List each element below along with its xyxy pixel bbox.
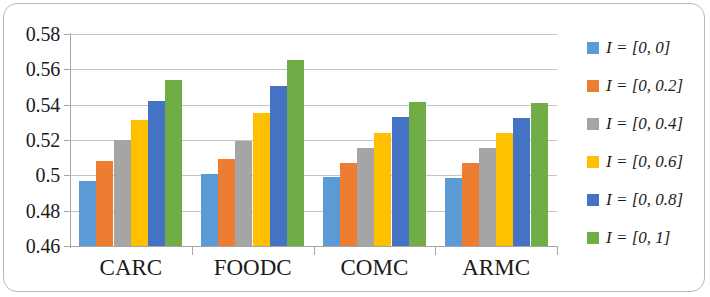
category-separator [314, 246, 315, 255]
category-separator [192, 246, 193, 255]
bar [513, 118, 530, 246]
bar [287, 60, 304, 246]
legend-label: I = [0, 0.6] [606, 152, 683, 172]
category-label-armc: ARMC [435, 255, 557, 280]
bar [323, 177, 340, 246]
bar [270, 86, 287, 246]
category-label-foodc: FOODC [192, 255, 314, 280]
bar [201, 174, 218, 246]
bar [131, 120, 148, 246]
legend-label: I = [0, 0.8] [606, 190, 683, 210]
legend-label: I = [0, 0.2] [606, 76, 683, 96]
bar [165, 80, 182, 246]
category-separator [557, 246, 558, 255]
legend-label: I = [0, 0] [606, 38, 670, 58]
y-axis-tick-label: 0.58 [8, 24, 60, 44]
legend-label: I = [0, 1] [606, 228, 670, 248]
plot-area [70, 34, 557, 246]
bar [531, 103, 548, 246]
bar [340, 163, 357, 246]
category-separator [435, 246, 436, 255]
legend-color-swatch [587, 118, 599, 130]
legend-color-swatch [587, 80, 599, 92]
bar [357, 148, 374, 246]
y-axis-tick-label: 0.46 [8, 236, 60, 256]
legend-color-swatch [587, 232, 599, 244]
y-axis-tick-label: 0.48 [8, 201, 60, 221]
legend-color-swatch [587, 156, 599, 168]
bar [479, 148, 496, 246]
legend-color-swatch [587, 42, 599, 54]
bar-group-comc [314, 34, 436, 246]
y-axis-tick-label: 0.56 [8, 59, 60, 79]
bar [235, 141, 252, 246]
bar [148, 101, 165, 246]
bar [374, 133, 391, 246]
bar [79, 181, 96, 246]
bar [253, 113, 270, 246]
bar [496, 133, 513, 246]
legend-label: I = [0, 0.4] [606, 114, 683, 134]
y-axis-tick-label: 0.52 [8, 130, 60, 150]
bar [392, 117, 409, 246]
bar-group-armc [435, 34, 557, 246]
bar [96, 161, 113, 246]
category-label-carc: CARC [70, 255, 192, 280]
bar [445, 178, 462, 246]
category-label-comc: COMC [313, 255, 435, 280]
bar [409, 102, 426, 246]
y-axis-tick-labels: 0.460.480.50.520.540.560.58 [4, 4, 60, 297]
bar [462, 163, 479, 246]
bar [114, 140, 131, 246]
legend-color-swatch [587, 194, 599, 206]
bar-group-carc [70, 34, 192, 246]
y-axis-tick-label: 0.5 [8, 165, 60, 185]
bar [218, 159, 235, 246]
y-axis-tick-label: 0.54 [8, 95, 60, 115]
chart-frame: 0.460.480.50.520.540.560.58 CARCFOODCCOM… [3, 3, 705, 292]
bar-group-foodc [192, 34, 314, 246]
